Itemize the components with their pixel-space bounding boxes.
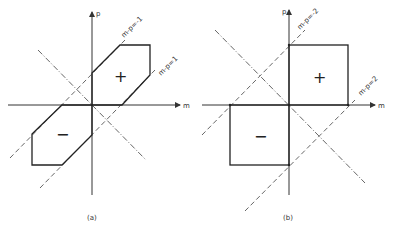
label-m-p-1: m-p=1 bbox=[157, 55, 180, 78]
vertex-dot bbox=[229, 104, 231, 106]
vertex-dot bbox=[288, 164, 290, 166]
panel-b: m p + − m-p=-2 m-p=2 (b) bbox=[202, 7, 385, 222]
plus-sign: + bbox=[313, 68, 326, 87]
panel-a: m p + − m-p=-1 m-p=1 (a) bbox=[8, 10, 190, 222]
line-m-plus-p-0 bbox=[215, 30, 365, 183]
minus-sign: − bbox=[254, 127, 267, 146]
p-axis-label: p bbox=[282, 8, 287, 16]
caption-b: (b) bbox=[283, 214, 293, 222]
label-m-p-2: m-p=2 bbox=[357, 75, 380, 98]
plus-sign: + bbox=[114, 67, 127, 86]
m-axis-label: m bbox=[378, 102, 385, 110]
caption-a: (a) bbox=[87, 214, 97, 222]
vertex-dot bbox=[347, 104, 349, 106]
label-m-p-minus-1: m-p=-1 bbox=[120, 15, 144, 39]
label-m-p-minus-2: m-p=-2 bbox=[296, 7, 320, 31]
diagram-canvas: m p + − m-p=-1 m-p=1 (a) m p + − bbox=[0, 0, 399, 229]
m-axis-label: m bbox=[183, 102, 190, 110]
minus-sign: − bbox=[56, 125, 69, 144]
origin-dot bbox=[288, 104, 290, 106]
vertex-dot bbox=[288, 44, 290, 46]
p-axis-label: p bbox=[96, 10, 101, 18]
